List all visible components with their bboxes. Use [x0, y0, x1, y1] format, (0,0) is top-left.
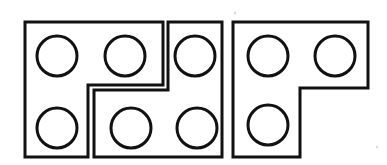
- speck-top: [234, 12, 236, 14]
- hole-right-bottom-1: [248, 105, 288, 145]
- hole-left-top-2: [105, 36, 145, 76]
- hole-middle-top-1: [175, 36, 215, 76]
- hole-right-top-1: [248, 36, 288, 76]
- hole-middle-bottom-2: [177, 108, 217, 148]
- hole-left-top-1: [37, 36, 77, 76]
- hole-left-bottom-1: [37, 108, 77, 148]
- figure-root: [0, 0, 387, 165]
- hole-right-top-2: [315, 36, 355, 76]
- puzzle-diagram: [0, 0, 387, 165]
- hole-middle-bottom-1: [111, 108, 151, 148]
- speck-right: [376, 146, 378, 148]
